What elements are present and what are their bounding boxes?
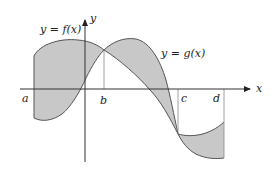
shaded-region-a-b: [34, 40, 104, 121]
x-axis-label: x: [256, 82, 263, 95]
curve-g-label: y = g(x): [160, 47, 205, 60]
y-axis-label: y: [89, 12, 97, 25]
point-c-label: c: [181, 92, 187, 105]
point-d-label: d: [213, 92, 220, 105]
point-b-label: b: [100, 94, 107, 107]
point-a-label: a: [22, 92, 29, 105]
curve-f-label: y = f(x): [39, 23, 81, 36]
diagram: x y y = f(x) y = g(x) a b c d: [0, 0, 273, 172]
